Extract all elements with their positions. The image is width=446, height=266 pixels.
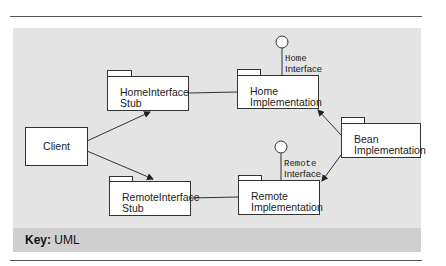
client-node[interactable]: Client xyxy=(25,127,88,166)
bean-implementation-node[interactable]: Bean Implementation xyxy=(341,123,421,158)
home-impl-label-2: Implementation xyxy=(250,97,318,108)
client-label: Client xyxy=(43,141,70,152)
home-interface-label: Home Interface xyxy=(285,54,322,74)
remote-interface-label: Remote Interface xyxy=(284,159,321,179)
home-stub-label-2: Stub xyxy=(120,98,188,109)
remote-interface-stub-node[interactable]: RemoteInterface Stub xyxy=(109,181,191,216)
remote-stub-label-2: Stub xyxy=(122,203,190,214)
bean-impl-label-2: Implementation xyxy=(354,145,420,156)
remote-implementation-node[interactable]: Remote Implementation xyxy=(238,180,320,215)
remote-impl-label-2: Implementation xyxy=(251,202,319,213)
home-interface-stub-node[interactable]: HomeInterface Stub xyxy=(107,76,189,111)
home-implementation-node[interactable]: Home Implementation xyxy=(237,75,319,109)
